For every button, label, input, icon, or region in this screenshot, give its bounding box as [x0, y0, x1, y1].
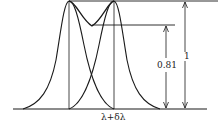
- combined-dip-curve: [69, 1, 114, 26]
- peak-ratio-label: 1: [183, 52, 191, 61]
- dip-ratio-label: 0.81: [157, 61, 177, 70]
- wavelength-label: λ+δλ: [101, 113, 125, 122]
- rayleigh-diagram: 0.81 1 λ+δλ: [0, 0, 218, 129]
- diagram-graphic: [0, 0, 218, 129]
